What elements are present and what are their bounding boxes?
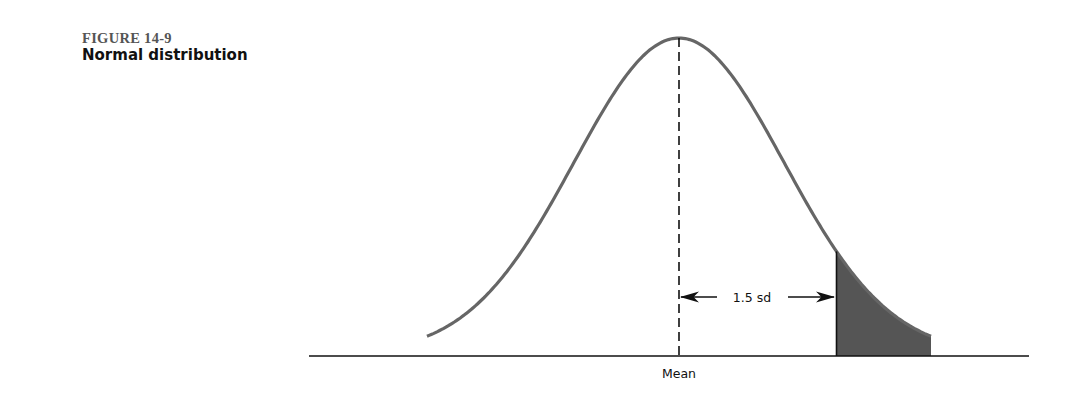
- right-tail-shaded-area: [837, 251, 932, 356]
- normal-distribution-chart: 1.5 sd Mean: [0, 0, 1077, 399]
- mean-label: Mean: [662, 366, 696, 381]
- sd-annotation-label: 1.5 sd: [733, 290, 771, 305]
